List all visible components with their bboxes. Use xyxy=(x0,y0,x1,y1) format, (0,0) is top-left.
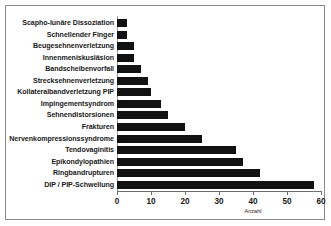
bar xyxy=(117,88,151,96)
x-tick-label: 30 xyxy=(214,197,223,206)
bar xyxy=(117,146,236,154)
bar-row: Sehnendistorsionen xyxy=(0,110,331,121)
bar xyxy=(117,100,161,108)
bar-category-label: Scapho-lunäre Dissoziation xyxy=(22,18,114,29)
bar-row: Schnellender Finger xyxy=(0,30,331,41)
bar-category-label: Innenmeniskusläsion xyxy=(43,53,114,64)
bar-row: Beugesehnenverletzung xyxy=(0,41,331,52)
bar-row: Impingementsyndrom xyxy=(0,99,331,110)
bar-category-label: Impingementsyndrom xyxy=(41,99,114,110)
bar xyxy=(117,42,134,50)
x-tick-mark xyxy=(321,191,322,195)
x-tick-mark xyxy=(253,191,254,195)
bar-category-label: Frakturen xyxy=(82,122,114,133)
bar-row: Kollateralbandverletzung PIP xyxy=(0,87,331,98)
chart-figure: Scapho-lunäre DissoziationSchnellender F… xyxy=(0,0,331,226)
bar xyxy=(117,181,314,189)
bar-category-label: Kollateralbandverletzung PIP xyxy=(17,87,114,98)
bar-category-label: Nervenkompressionssyndrome xyxy=(9,134,114,145)
bar-row: Scapho-lunäre Dissoziation xyxy=(0,18,331,29)
bar-category-label: Bandscheibenvorfall xyxy=(45,64,114,75)
x-tick-mark xyxy=(151,191,152,195)
x-tick-mark xyxy=(185,191,186,195)
bar-row: DIP / PIP-Schwellung xyxy=(0,180,331,191)
bar xyxy=(117,54,134,62)
x-tick-label: 50 xyxy=(282,197,291,206)
x-tick-label: 60 xyxy=(316,197,325,206)
x-tick-mark xyxy=(219,191,220,195)
bar-category-label: Strecksehnenverletzung xyxy=(33,76,114,87)
bar-category-label: DIP / PIP-Schwellung xyxy=(44,180,114,191)
bar-category-label: Beugesehnenverletzung xyxy=(33,41,114,52)
plot-area: Scapho-lunäre DissoziationSchnellender F… xyxy=(0,0,331,226)
bar-row: Bandscheibenvorfall xyxy=(0,64,331,75)
bar-row: Epikondylopathien xyxy=(0,157,331,168)
x-axis-label: Anzahl xyxy=(244,208,261,214)
bar xyxy=(117,19,127,27)
bar xyxy=(117,65,141,73)
x-tick-label: 40 xyxy=(248,197,257,206)
bar-category-label: Sehnendistorsionen xyxy=(47,110,114,121)
x-tick-label: 20 xyxy=(180,197,189,206)
x-tick-mark xyxy=(287,191,288,195)
bar xyxy=(117,158,243,166)
bar-category-label: Epikondylopathien xyxy=(51,157,114,168)
bar-row: Frakturen xyxy=(0,122,331,133)
bar xyxy=(117,123,185,131)
bar-row: Innenmeniskusläsion xyxy=(0,53,331,64)
x-tick-label: 10 xyxy=(146,197,155,206)
bar-row: Ringbandrupturen xyxy=(0,168,331,179)
bar-category-label: Ringbandrupturen xyxy=(53,168,114,179)
bar-category-label: Schnellender Finger xyxy=(47,30,114,41)
bar xyxy=(117,169,260,177)
bar-row: Tendovaginitis xyxy=(0,145,331,156)
x-tick-label: 0 xyxy=(115,197,120,206)
bar xyxy=(117,111,168,119)
bar xyxy=(117,135,202,143)
bar-row: Nervenkompressionssyndrome xyxy=(0,134,331,145)
bar xyxy=(117,77,148,85)
bar-row: Strecksehnenverletzung xyxy=(0,76,331,87)
bar xyxy=(117,31,127,39)
x-tick-mark xyxy=(117,191,118,195)
bar-category-label: Tendovaginitis xyxy=(65,145,114,156)
